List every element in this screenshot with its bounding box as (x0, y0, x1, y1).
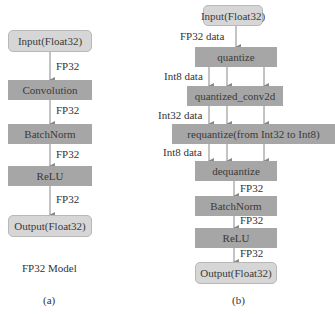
edge-label-b-1: FP32 data (180, 30, 224, 42)
edge-label-b-4: Int8 data (163, 146, 202, 158)
node-input-b: Input(Float32) (203, 5, 263, 26)
node-batchnorm-a: BatchNorm (8, 124, 92, 144)
edge-label-b-7: FP32 (240, 247, 263, 259)
node-requantize-b: requantize(from Int32 to Int8) (172, 124, 335, 144)
node-quantize-b: quantize (195, 47, 277, 67)
node-output-a: Output(Float32) (8, 215, 92, 237)
node-dequantize-b: dequantize (195, 161, 277, 181)
node-convolution-a: Convolution (8, 80, 92, 100)
node-batchnorm-b: BatchNorm (195, 196, 277, 216)
node-input-a: Input(Float32) (8, 30, 92, 52)
diagram-a-caption: (a) (43, 294, 55, 306)
edge-label-b-3: Int32 data (158, 109, 202, 121)
edge-label-b-5: FP32 (240, 182, 263, 194)
edge-label-a-1: FP32 (56, 60, 79, 72)
edge-label-a-4: FP32 (56, 193, 79, 205)
edge-label-b-6: FP32 (240, 214, 263, 226)
diagram-b-caption: (b) (232, 294, 245, 306)
node-relu-a: ReLU (8, 166, 92, 186)
edge-label-b-2: Int8 data (164, 70, 203, 82)
node-relu-b: ReLU (195, 228, 277, 248)
edge-label-a-2: FP32 (56, 104, 79, 116)
edge-label-a-3: FP32 (56, 148, 79, 160)
node-output-b: Output(Float32) (195, 262, 277, 284)
diagram-a-title: FP32 Model (22, 262, 77, 274)
node-quantized-conv2d-b: quantized_conv2d (187, 86, 283, 106)
